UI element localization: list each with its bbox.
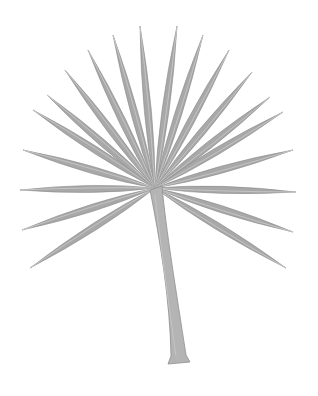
stem [150,186,190,364]
palm-leaf-illustration [0,0,318,396]
palm-leaf-graphic [0,0,318,396]
